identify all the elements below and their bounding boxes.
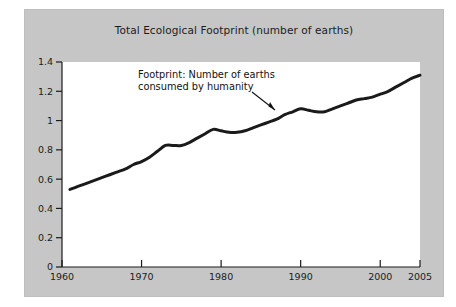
- x-tick-label: 1960: [50, 271, 74, 282]
- plot-area-wrapper: 00.20.40.60.811.21.4 1960197019801990200…: [25, 10, 443, 296]
- x-tick-label: 2005: [408, 271, 432, 282]
- annotation-line-1: Footprint: Number of earths: [138, 69, 275, 80]
- plot-background-rect: [62, 62, 420, 267]
- x-tick-label: 1980: [209, 271, 233, 282]
- x-tick-label: 1970: [129, 271, 153, 282]
- line-chart-svg: 00.20.40.60.811.21.4 1960197019801990200…: [25, 10, 443, 296]
- x-tick-label: 2000: [368, 271, 392, 282]
- y-tick-label: 0.8: [38, 144, 53, 155]
- y-tick-label: 0.6: [38, 174, 53, 185]
- y-axis-ticks: 00.20.40.60.811.21.4: [38, 56, 62, 272]
- plot-background: [62, 62, 420, 267]
- x-tick-label: 1990: [289, 271, 313, 282]
- figure-canvas: Total Ecological Footprint (number of ea…: [0, 0, 456, 307]
- chart-panel: Total Ecological Footprint (number of ea…: [25, 10, 443, 296]
- y-tick-label: 1.2: [38, 86, 53, 97]
- y-tick-label: 0.2: [38, 232, 53, 243]
- annotation-line-2: consumed by humanity: [138, 81, 254, 92]
- y-tick-label: 1.4: [38, 56, 53, 67]
- y-tick-label: 0.4: [38, 203, 53, 214]
- y-tick-label: 1: [47, 115, 53, 126]
